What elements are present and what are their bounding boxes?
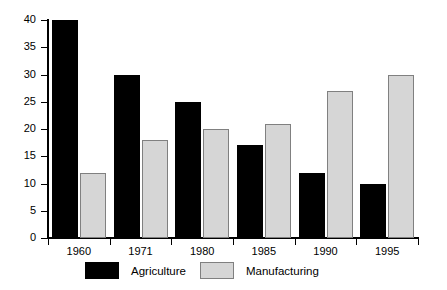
y-axis-tick-label: 25 [24, 95, 36, 108]
y-axis-tick-mark [41, 156, 48, 157]
y-axis-tick-mark [41, 129, 48, 130]
y-axis-tick-label: 15 [24, 149, 36, 162]
legend-swatch-agriculture [85, 262, 119, 279]
bar-1995-manufacturing [388, 75, 414, 239]
x-axis-tick-mark [356, 239, 357, 245]
legend-label-agriculture: Agriculture [131, 265, 186, 277]
y-axis-tick-mark [41, 238, 48, 239]
y-axis-tick-label: 10 [24, 177, 36, 190]
y-axis-tick-label: 5 [30, 204, 36, 217]
x-axis-tick-mark [48, 239, 49, 245]
bar-1960-agriculture [52, 20, 78, 238]
bar-1990-manufacturing [327, 91, 353, 238]
legend-entry-manufacturing: Manufacturing [200, 262, 319, 279]
x-axis-tick-label-1995: 1995 [375, 245, 399, 257]
x-axis-tick-label-1990: 1990 [313, 245, 337, 257]
y-axis-tick: 15 [41, 156, 48, 157]
y-axis-tick-mark [41, 47, 48, 48]
x-axis-tick-label-1971: 1971 [128, 245, 152, 257]
x-axis-tick-mark [233, 239, 234, 245]
y-axis-tick-mark [41, 102, 48, 103]
bar-1971-agriculture [114, 75, 140, 239]
y-axis-tick: 30 [41, 75, 48, 76]
y-axis-tick: 20 [41, 129, 48, 130]
bar-1980-manufacturing [203, 129, 229, 238]
legend-entry-agriculture: Agriculture [85, 262, 186, 279]
bar-1990-agriculture [299, 173, 325, 238]
bar-1971-manufacturing [142, 140, 168, 238]
y-axis-tick: 10 [41, 184, 48, 185]
bar-1980-agriculture [175, 102, 201, 238]
y-axis-tick: 35 [41, 47, 48, 48]
y-axis-tick-label: 0 [30, 231, 36, 244]
x-axis-tick-mark [418, 239, 419, 245]
x-axis-tick-label-1980: 1980 [190, 245, 214, 257]
y-axis-tick-mark [41, 75, 48, 76]
legend-label-manufacturing: Manufacturing [246, 265, 319, 277]
y-axis-tick-mark [41, 184, 48, 185]
y-axis-tick-label: 20 [24, 122, 36, 135]
x-axis-tick-label-1960: 1960 [67, 245, 91, 257]
y-axis-tick-label: 30 [24, 68, 36, 81]
bar-1985-manufacturing [265, 124, 291, 238]
chart-legend: AgricultureManufacturing [0, 262, 447, 288]
bar-1960-manufacturing [80, 173, 106, 238]
plot-area [48, 20, 418, 238]
y-axis-tick: 0 [41, 238, 48, 239]
x-axis-tick-mark [171, 239, 172, 245]
bar-1985-agriculture [237, 145, 263, 238]
y-axis-tick-mark [41, 211, 48, 212]
x-axis-tick-label-1985: 1985 [252, 245, 276, 257]
y-axis-tick-label: 40 [24, 13, 36, 26]
y-axis-tick: 25 [41, 102, 48, 103]
y-axis-tick: 40 [41, 20, 48, 21]
legend-swatch-manufacturing [200, 262, 234, 279]
bar-1995-agriculture [360, 184, 386, 239]
y-axis-tick: 5 [41, 211, 48, 212]
chart-screenshot: 0510152025303540 19601971198019851990199… [0, 0, 447, 290]
x-axis-tick-mark [110, 239, 111, 245]
x-axis-tick-mark [295, 239, 296, 245]
y-axis-tick-mark [41, 20, 48, 21]
y-axis-tick-label: 35 [24, 40, 36, 53]
